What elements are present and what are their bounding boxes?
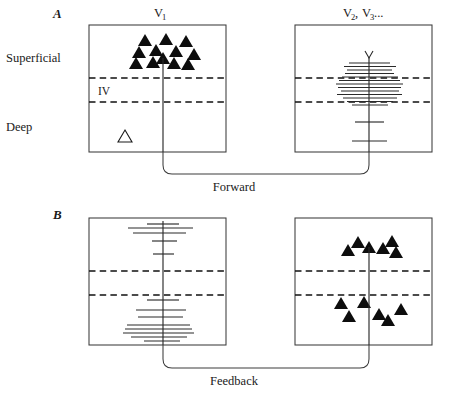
box-outline-b-left <box>89 218 226 345</box>
box-outline-b-right <box>295 218 432 345</box>
area-title-v1: V 1 <box>154 6 166 22</box>
panel-b-left-box <box>89 218 226 345</box>
panel-b-letter: B <box>52 207 62 222</box>
cortical-connections-diagram: A Superficial Deep V 1 V 2 , V 3 ... <box>0 0 468 405</box>
feedback-connector <box>163 345 369 368</box>
panel-b: B <box>52 207 432 388</box>
box-outline-v2v3 <box>295 25 432 152</box>
figure-container: A Superficial Deep V 1 V 2 , V 3 ... <box>0 0 468 405</box>
area-title-v1-sub: 1 <box>162 12 166 22</box>
panel-a: A Superficial Deep V 1 V 2 , V 3 ... <box>6 6 432 194</box>
feedback-label: Feedback <box>210 374 259 388</box>
panel-b-right-box <box>295 218 432 345</box>
label-deep: Deep <box>6 120 32 134</box>
forward-connector <box>163 152 369 174</box>
area-title-ellipsis: ... <box>374 6 383 20</box>
panel-a-left-box: IV <box>89 25 226 152</box>
area-title-v2-comma: , <box>355 6 358 20</box>
panel-a-right-box <box>295 25 432 152</box>
layer-iv-label: IV <box>98 85 111 97</box>
forward-label: Forward <box>213 180 256 194</box>
label-superficial: Superficial <box>6 51 61 65</box>
panel-a-letter: A <box>52 6 62 21</box>
area-title-v2-v3: V 2 , V 3 ... <box>343 6 383 22</box>
